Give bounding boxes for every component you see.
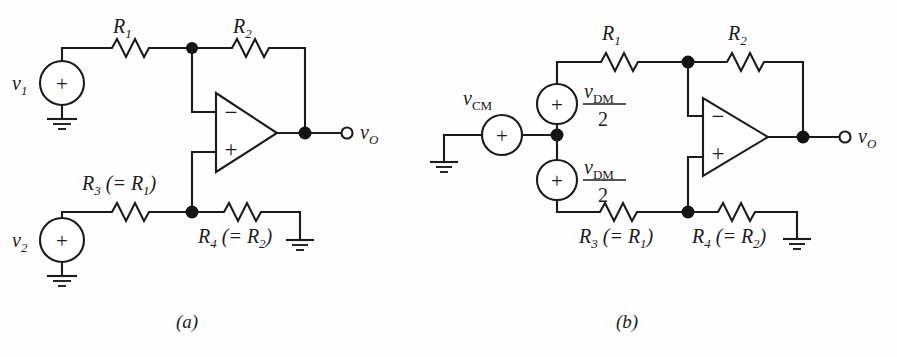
resistor-r3-a: R3 (= R1) [81,172,192,221]
opamp-b-noninverting-sign: + [712,141,725,166]
resistor-r3-zigzag [100,203,192,221]
circuit-b: + vCM + vDM 2 [431,22,877,333]
resistor-r1-label: R1 [112,15,132,41]
caption-a: (a) [176,311,198,333]
source-vcm-label: vCM [463,87,493,113]
wire-vdm-top-to-r1-b [557,62,585,84]
opamp-b-inverting-sign: − [712,104,725,129]
circuit-a: + v1 R1 [12,15,379,333]
source-vdm-bottom-numerator: vDM [584,156,614,182]
source-vdm-bottom-denominator: 2 [598,184,608,206]
source-vdm-top-denominator: 2 [598,108,608,130]
opamp-a: − + [216,93,277,172]
resistor-r3-b-label: R3 (= R1) [578,225,654,251]
ground-vcm-b [431,135,457,172]
resistor-r1-zigzag [100,39,192,57]
circuit-diagram-svg: + v1 R1 [0,0,897,357]
source-vdm-half-top: + vDM 2 [537,62,626,135]
resistor-r4-b: R4 (= R2) [688,203,810,251]
source-vcm-polarity: + [496,124,508,148]
resistor-r3-b-zigzag [575,203,688,221]
output-a: vO [277,121,379,147]
resistor-r3-label: R3 (= R1) [81,172,157,198]
output-terminal-b [840,132,851,143]
source-v1-polarity: + [56,72,68,96]
resistor-r1-b-label: R1 [601,22,621,48]
ground-r4-b [784,239,810,249]
wire-vdm-bottom-to-r3-b [557,200,575,212]
wire-node-to-inverting-input-b [688,62,703,116]
source-v1-label: v1 [12,72,27,98]
node-output-a [299,127,312,140]
resistor-r2-b-label: R2 [727,22,747,48]
resistor-r1-b: R1 [585,22,688,71]
output-terminal-a [342,128,353,139]
source-vdm-bottom-label: vDM 2 [583,156,626,206]
source-vdm-bottom-polarity: + [551,169,563,193]
resistor-r4-b-label: R4 (= R2) [691,225,767,251]
output-label-b: vO [858,125,877,151]
ground-v2 [48,276,76,286]
output-b: vO [768,125,877,151]
source-vdm-top-numerator: vDM [584,80,614,106]
wire-v2-to-r3 [62,212,100,218]
wire-noninverting-input-b [688,157,703,212]
node-output-b [797,131,810,144]
wire-v1-to-r1 [62,48,100,61]
wire-node-to-inverting-input-a [192,48,216,112]
source-vdm-half-bottom: + vDM 2 [537,135,626,212]
resistor-r1-a: R1 [100,15,192,57]
source-vdm-top-polarity: + [551,93,563,117]
source-v2-polarity: + [56,229,68,253]
caption-b: (b) [616,311,638,333]
resistor-r4-label: R4 (= R2) [197,225,273,251]
source-v2: + v2 [12,212,100,286]
opamp-a-inverting-sign: − [225,100,238,125]
source-v2-label: v2 [12,229,28,255]
resistor-r1-b-zigzag [585,53,688,71]
resistor-r2-label: R2 [232,15,252,41]
wire-noninverting-input-a [192,152,216,212]
output-label-a: vO [360,121,379,147]
opamp-a-noninverting-sign: + [225,137,238,162]
source-vdm-top-label: vDM 2 [583,80,626,130]
ground-r4-a [287,240,313,250]
ground-v1 [48,119,76,129]
opamp-b: − + [703,98,768,176]
circuit-figure: + v1 R1 [0,0,897,357]
source-v1: + v1 [12,48,100,129]
resistor-r3-b: R3 (= R1) [575,203,688,251]
resistor-r4-a: R4 (= R2) [192,203,313,251]
